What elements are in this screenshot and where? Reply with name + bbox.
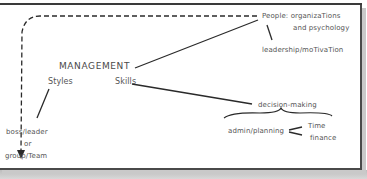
boss-label: boss/leader	[6, 128, 48, 136]
skills-decision-line	[132, 84, 252, 104]
leadership-label: leadership/moTivaTion	[262, 46, 343, 54]
admin-label: admin/planning	[228, 127, 284, 135]
group-label: group/Team	[5, 152, 47, 160]
styles-boss-line	[37, 89, 49, 118]
time-label: Time	[308, 122, 326, 130]
brace-icon	[224, 108, 332, 118]
styles-label: Styles	[48, 78, 73, 86]
people-label-2: and psychology	[293, 24, 349, 32]
people-label: People: organizaTions	[262, 12, 340, 20]
finance-label: finance	[310, 134, 336, 142]
people-leadership-line	[267, 25, 272, 40]
management-people-line	[135, 20, 258, 68]
management-root: MANAGEMENT	[59, 62, 130, 70]
skills-label: Skills	[115, 78, 136, 86]
decision-label: decision-making	[258, 101, 317, 109]
fork-finance-line	[289, 132, 302, 135]
fork-time-line	[289, 127, 302, 130]
or-label: or	[24, 140, 31, 148]
